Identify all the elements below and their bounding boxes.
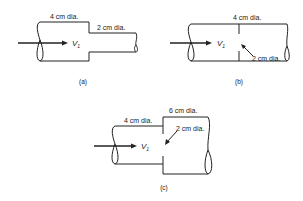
pipe-flow-diagrams: V1 4 cm dia. 2 cm dia. (a) V1 4 cm dia. … (0, 0, 303, 201)
downstream-diameter-label-c: 6 cm dia. (169, 107, 197, 114)
figure-c: V1 4 cm dia. 6 cm dia. 2 cm dia. (c) (94, 107, 212, 192)
caption-b: (b) (235, 78, 243, 86)
velocity-label-a: V1 (72, 39, 80, 49)
downstream-diameter-label-a: 2 cm dia. (97, 24, 125, 31)
velocity-label-c: V1 (141, 142, 149, 152)
orifice-diameter-label-b: 2 cm dia. (252, 55, 280, 62)
upstream-diameter-label-c: 4 cm dia. (124, 117, 152, 124)
orifice-pointer-c (165, 131, 177, 145)
flow-arrow-a (18, 41, 68, 46)
caption-c: (c) (160, 184, 168, 192)
velocity-label-b: V1 (217, 39, 225, 49)
pipe-diameter-label-b: 4 cm dia. (233, 14, 261, 21)
caption-a: (a) (79, 78, 87, 86)
upstream-diameter-label-a: 4 cm dia. (50, 13, 78, 20)
figure-b: V1 4 cm dia. 2 cm dia. (b) (170, 14, 289, 86)
figure-a: V1 4 cm dia. 2 cm dia. (a) (18, 13, 138, 86)
orifice-diameter-label-c: 2 cm dia. (176, 125, 204, 132)
